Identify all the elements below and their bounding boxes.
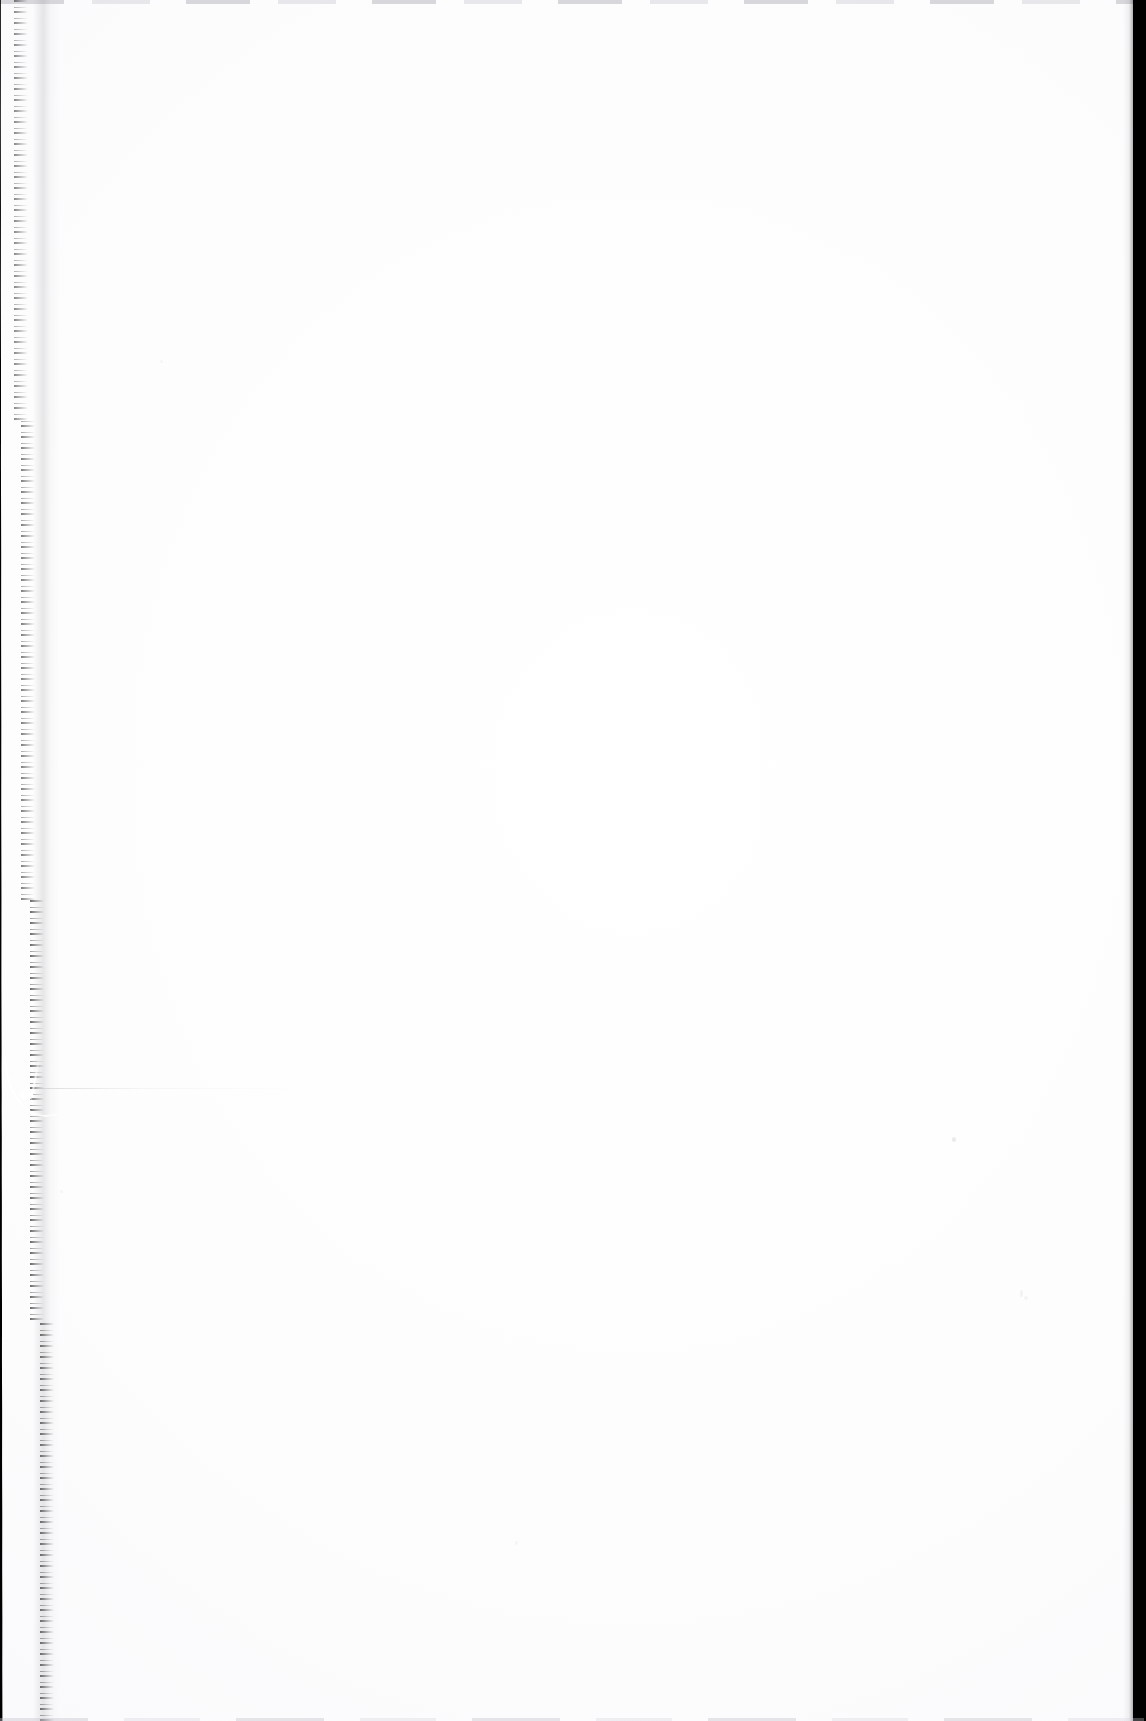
gutter-shadow-falloff <box>0 0 60 1721</box>
right-edge-strip <box>1133 0 1146 1721</box>
paper-field <box>0 0 1146 1721</box>
gutter-black-wedge <box>0 0 60 1721</box>
binding-gutter-left <box>0 0 60 1721</box>
scanned-page <box>0 0 1146 1721</box>
